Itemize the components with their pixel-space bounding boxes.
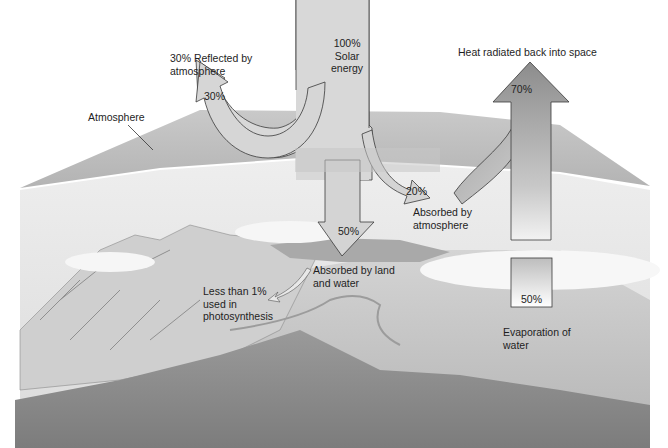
cloud-left: [65, 252, 155, 272]
evaporation-line-1: Evaporation of: [503, 326, 571, 339]
reflected-label: 30% Reflected by atmosphere: [170, 52, 252, 77]
energy-word: energy: [331, 62, 363, 75]
solar-pct: 100%: [331, 37, 363, 50]
evaporation-line-2: water: [503, 339, 571, 352]
absorbed-atmosphere-label: Absorbed by atmosphere: [413, 206, 472, 231]
absorbed-land-line-2: and water: [313, 277, 395, 290]
photosynthesis-line-1: Less than 1%: [203, 285, 273, 298]
absorbed-land-percent: 50%: [338, 225, 359, 237]
energy-budget-diagram: 100% Solar energy 30% Reflected by atmos…: [0, 0, 668, 448]
atmosphere-label: Atmosphere: [88, 111, 145, 124]
photosynthesis-line-3: photosynthesis: [203, 310, 273, 323]
evaporation-percent: 50%: [521, 293, 542, 305]
reflected-line-1: 30% Reflected by: [170, 52, 252, 65]
absorbed-land-line-1: Absorbed by land: [313, 264, 395, 277]
absorbed-atm-line-1: Absorbed by: [413, 206, 472, 219]
photosynthesis-label: Less than 1% used in photosynthesis: [203, 285, 273, 323]
absorbed-atmosphere-percent: 20%: [406, 185, 427, 197]
solar-energy-label: 100% Solar energy: [331, 37, 363, 75]
reflected-percent: 30%: [204, 90, 225, 102]
evaporation-label: Evaporation of water: [503, 326, 571, 351]
heat-radiated-label: Heat radiated back into space: [458, 46, 597, 59]
photosynthesis-line-2: used in: [203, 298, 273, 311]
solar-word: Solar: [331, 50, 363, 63]
heat-percent: 70%: [511, 83, 532, 95]
absorbed-atm-line-2: atmosphere: [413, 219, 472, 232]
reflected-line-2: atmosphere: [170, 65, 252, 78]
absorbed-land-label: Absorbed by land and water: [313, 264, 395, 289]
